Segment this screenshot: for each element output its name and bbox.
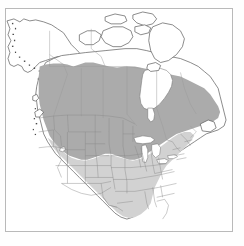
melville-island	[105, 14, 127, 24]
devon-island	[135, 25, 151, 35]
map-frame	[5, 8, 233, 232]
ellesmere-island	[133, 12, 157, 26]
baffin-island	[149, 23, 185, 63]
victoria-island	[101, 27, 133, 47]
banks-island	[79, 31, 101, 45]
range-map-figure	[0, 0, 244, 246]
north-america-map	[6, 9, 232, 231]
